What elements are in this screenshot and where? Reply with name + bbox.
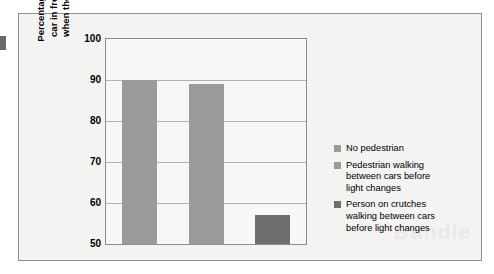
- y-axis-tick-labels: 100 90 80 70 60 50: [72, 0, 101, 274]
- y-axis-title: Percentage of cars that honk when car in…: [32, 0, 76, 69]
- legend-item-3: Person on crutches walking between cars …: [334, 199, 484, 234]
- legend-item-1: No pedestrian: [334, 143, 484, 155]
- plot-area: [105, 38, 307, 245]
- y-tick-90: 90: [75, 75, 101, 85]
- bar-3: [255, 215, 290, 244]
- legend-swatch-icon: [334, 145, 341, 152]
- y-tick-60: 60: [75, 198, 101, 208]
- y-tick-50: 50: [75, 239, 101, 249]
- legend-swatch-icon: [334, 162, 341, 169]
- left-margin-mark: [0, 36, 6, 50]
- chart-screenshot: Bundle Percentage of cars that honk when…: [0, 0, 494, 274]
- bar-series: [106, 39, 306, 244]
- legend: No pedestrianPedestrian walking between …: [334, 143, 484, 239]
- bar-2: [189, 84, 224, 244]
- y-tick-100: 100: [75, 34, 101, 44]
- y-tick-70: 70: [75, 157, 101, 167]
- bar-1: [122, 80, 157, 244]
- legend-item-label: No pedestrian: [346, 143, 404, 155]
- legend-item-label: Pedestrian walking between cars before l…: [346, 160, 430, 195]
- y-tick-80: 80: [75, 116, 101, 126]
- legend-item-label: Person on crutches walking between cars …: [346, 199, 435, 234]
- legend-swatch-icon: [334, 201, 341, 208]
- y-axis-title-text: Percentage of cars that honk when car in…: [35, 0, 73, 42]
- legend-item-2: Pedestrian walking between cars before l…: [334, 160, 484, 195]
